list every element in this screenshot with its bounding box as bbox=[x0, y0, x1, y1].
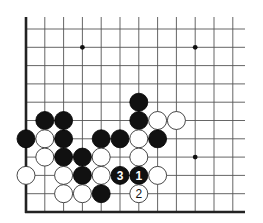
white-stone bbox=[17, 166, 35, 184]
black-stone bbox=[55, 112, 73, 130]
white-stone bbox=[73, 185, 91, 203]
black-stone-icon bbox=[55, 148, 73, 166]
white-stone-icon bbox=[36, 148, 54, 166]
white-stone-icon bbox=[130, 148, 148, 166]
white-stone-icon bbox=[73, 185, 91, 203]
white-stone-icon bbox=[130, 130, 148, 148]
white-stone bbox=[92, 166, 110, 184]
white-stone-icon bbox=[55, 185, 73, 203]
move-number-label: 2 bbox=[135, 187, 142, 201]
white-stone bbox=[149, 112, 167, 130]
white-stone bbox=[149, 166, 167, 184]
star-point-icon bbox=[80, 45, 85, 50]
white-stone-icon bbox=[92, 148, 110, 166]
black-stone bbox=[73, 148, 91, 166]
move-number-label: 1 bbox=[135, 169, 142, 183]
black-stone-icon bbox=[130, 93, 148, 111]
move-number-label: 3 bbox=[117, 169, 124, 183]
black-stone-icon bbox=[92, 185, 110, 203]
black-stone: 3 bbox=[111, 166, 129, 184]
white-stone-icon bbox=[92, 166, 110, 184]
black-stone bbox=[92, 130, 110, 148]
black-stone bbox=[73, 166, 91, 184]
black-stone-icon bbox=[149, 130, 167, 148]
white-stone-icon bbox=[17, 166, 35, 184]
black-stone bbox=[130, 112, 148, 130]
white-stone-icon bbox=[36, 130, 54, 148]
black-stone-icon bbox=[111, 130, 129, 148]
black-stone-icon bbox=[55, 130, 73, 148]
black-stone-icon bbox=[73, 148, 91, 166]
white-stone bbox=[130, 130, 148, 148]
black-stone bbox=[111, 130, 129, 148]
black-stone-icon bbox=[130, 112, 148, 130]
black-stone bbox=[36, 112, 54, 130]
white-stone-icon bbox=[149, 112, 167, 130]
white-stone bbox=[92, 148, 110, 166]
white-stone bbox=[36, 130, 54, 148]
black-stone-icon bbox=[92, 130, 110, 148]
white-stone bbox=[167, 112, 185, 130]
white-stone bbox=[55, 185, 73, 203]
white-stone bbox=[130, 148, 148, 166]
white-stone bbox=[55, 166, 73, 184]
white-stone-icon bbox=[149, 166, 167, 184]
white-stone-icon bbox=[167, 112, 185, 130]
black-stone-icon bbox=[73, 166, 91, 184]
go-board-diagram: 312 bbox=[0, 0, 263, 223]
black-stone: 1 bbox=[130, 166, 148, 184]
go-board: 312 bbox=[0, 0, 263, 223]
star-point-icon bbox=[193, 45, 198, 50]
white-stone-icon bbox=[55, 166, 73, 184]
black-stone-icon bbox=[55, 112, 73, 130]
black-stone bbox=[92, 185, 110, 203]
star-point-icon bbox=[193, 155, 198, 160]
black-stone bbox=[149, 130, 167, 148]
black-stone bbox=[55, 130, 73, 148]
black-stone bbox=[130, 93, 148, 111]
black-stone-icon bbox=[17, 130, 35, 148]
black-stone bbox=[55, 148, 73, 166]
black-stone-icon bbox=[36, 112, 54, 130]
black-stone bbox=[17, 130, 35, 148]
white-stone: 2 bbox=[130, 185, 148, 203]
white-stone bbox=[36, 148, 54, 166]
